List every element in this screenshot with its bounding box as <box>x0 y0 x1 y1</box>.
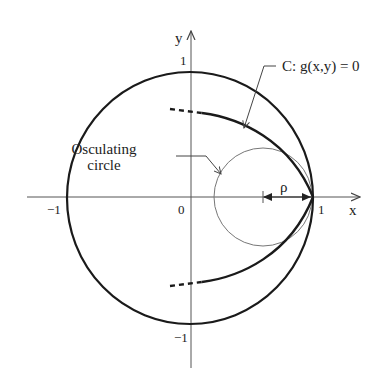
y-axis-label: y <box>175 30 183 46</box>
curve-c-leader <box>244 66 276 128</box>
rho-label: ρ <box>280 179 288 195</box>
curve-c-lower <box>202 197 313 282</box>
osculating-circle-diagram: y x 1 −1 −1 0 1 C: g(x,y) = 0 Osculating… <box>0 0 384 388</box>
curve-c-upper <box>202 113 313 197</box>
x-tick-1: 1 <box>318 202 325 217</box>
osculating-label-line2: circle <box>87 157 121 173</box>
curve-c-label: C: g(x,y) = 0 <box>282 58 360 75</box>
y-tick-1: 1 <box>180 53 187 68</box>
x-axis-label: x <box>349 202 357 218</box>
x-tick-0: 0 <box>178 202 185 217</box>
y-tick-neg1: −1 <box>174 330 188 345</box>
osculating-leader <box>176 156 221 174</box>
curve-c-upper-dashed <box>170 109 202 113</box>
osculating-label-line1: Osculating <box>72 141 137 157</box>
unit-circle <box>67 72 313 324</box>
x-tick-neg1: −1 <box>47 202 61 217</box>
curve-c-lower-dashed <box>170 282 202 286</box>
